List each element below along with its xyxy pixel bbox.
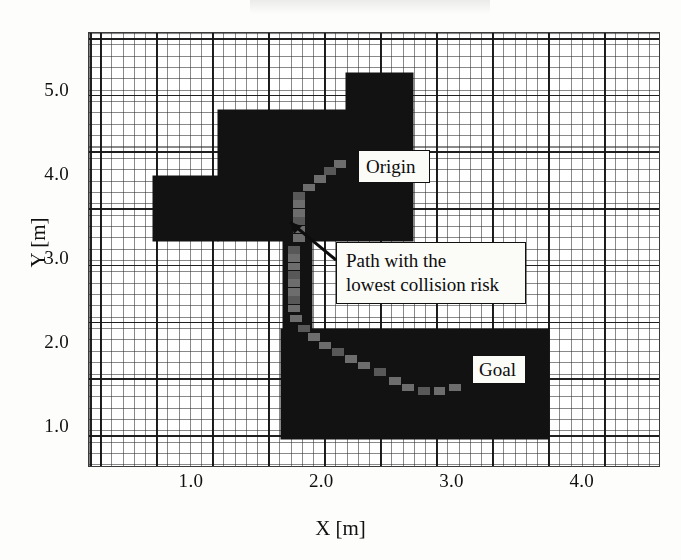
path-cell — [288, 305, 300, 313]
figure-root: Origin Goal Path with the lowest collisi… — [0, 0, 681, 560]
path-cell — [293, 200, 305, 208]
path-cell — [293, 209, 305, 217]
path-cell — [288, 246, 300, 254]
goal-label: Goal — [479, 358, 525, 382]
path-cell — [288, 296, 300, 304]
path-annotation-line1: Path with the — [346, 249, 525, 273]
path-cell — [402, 384, 414, 392]
path-cell — [332, 348, 344, 356]
path-cell — [334, 160, 346, 168]
path-cell — [374, 368, 386, 376]
y-tick-label: 4.0 — [23, 163, 69, 185]
y-tick-label: 1.0 — [23, 415, 69, 437]
path-cell — [324, 167, 336, 175]
path-annotation-line2: lowest collision risk — [346, 273, 525, 297]
path-cell — [293, 226, 305, 234]
path-cell — [308, 333, 320, 341]
path-cell — [303, 184, 315, 192]
x-tick-label: 2.0 — [291, 470, 351, 492]
path-cell — [314, 175, 326, 183]
path-cell — [449, 384, 461, 392]
obstacle-upper-left-wing — [153, 176, 218, 242]
path-cell — [418, 387, 430, 395]
path-cell — [290, 315, 302, 323]
y-tick-label: 2.0 — [23, 331, 69, 353]
x-tick-label: 3.0 — [422, 470, 482, 492]
goal-label-box: Goal — [472, 355, 526, 384]
path-cell — [319, 342, 331, 350]
path-annotation-box: Path with the lowest collision risk — [336, 242, 526, 304]
path-cell — [288, 271, 300, 279]
obstacle-top-tower — [346, 73, 414, 110]
x-tick-label: 4.0 — [552, 470, 612, 492]
path-cell — [293, 234, 305, 242]
path-cell — [358, 362, 370, 370]
path-cell — [288, 279, 300, 287]
y-axis-label: Y [m] — [26, 183, 51, 303]
path-cell — [288, 288, 300, 296]
path-cell — [288, 254, 300, 262]
path-cell — [298, 325, 310, 333]
scan-artifact — [250, 0, 490, 14]
x-axis-label: X [m] — [0, 516, 681, 541]
origin-label-box: Origin — [358, 150, 430, 183]
path-cell — [389, 377, 401, 385]
y-tick-label: 5.0 — [23, 79, 69, 101]
path-cell — [288, 263, 300, 271]
path-cell — [345, 355, 357, 363]
path-cell — [293, 217, 305, 225]
path-cell — [434, 387, 446, 395]
origin-label: Origin — [366, 155, 429, 179]
path-cell — [293, 192, 305, 200]
x-tick-label: 1.0 — [161, 470, 221, 492]
